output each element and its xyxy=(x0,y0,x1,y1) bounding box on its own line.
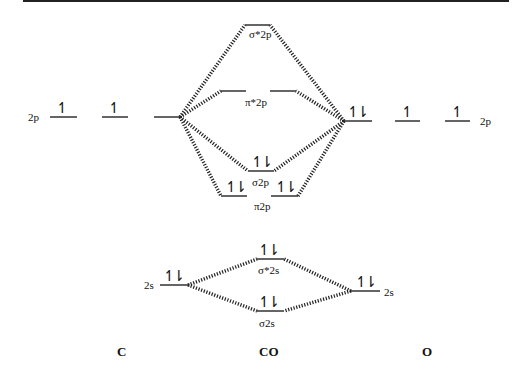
c-2p-label: 2p xyxy=(28,112,39,123)
c-2p-electron-2: ↿ xyxy=(108,101,118,116)
sigma-2p-label: σ2p xyxy=(252,177,269,188)
pi-2p-electrons-2: ↿⇂ xyxy=(275,180,294,195)
c-2p-electron-1: ↿ xyxy=(56,101,66,116)
sigma-2s-label: σ2s xyxy=(259,318,275,329)
sigma-2p-electrons: ↿⇂ xyxy=(251,155,270,170)
sigma-star-2p-label: σ*2p xyxy=(249,29,271,40)
atom-label-o: O xyxy=(422,344,432,360)
o-2p-electron-2: ↿ xyxy=(401,105,411,120)
o-2p-electron-3: ↿ xyxy=(451,105,461,120)
atom-label-c: C xyxy=(117,344,126,360)
sigma-2s-electrons: ↿⇂ xyxy=(258,295,277,310)
o-2p-label: 2p xyxy=(480,116,491,127)
c-2s-electrons: ↿⇂ xyxy=(163,269,182,284)
pi-2p-electrons-1: ↿⇂ xyxy=(225,180,244,195)
c-2s-label: 2s xyxy=(144,280,154,291)
atom-label-co: CO xyxy=(259,344,279,360)
sigma-star-2s-label: σ*2s xyxy=(258,265,279,276)
o-2p-electron-1: ↿⇂ xyxy=(347,105,366,120)
o-2s-label: 2s xyxy=(384,287,394,298)
o-2s-electrons: ↿⇂ xyxy=(355,275,374,290)
sigma-star-2s-electrons: ↿⇂ xyxy=(258,243,277,258)
pi-2p-label: π2p xyxy=(254,201,271,212)
pi-star-2p-label: π*2p xyxy=(245,97,267,108)
